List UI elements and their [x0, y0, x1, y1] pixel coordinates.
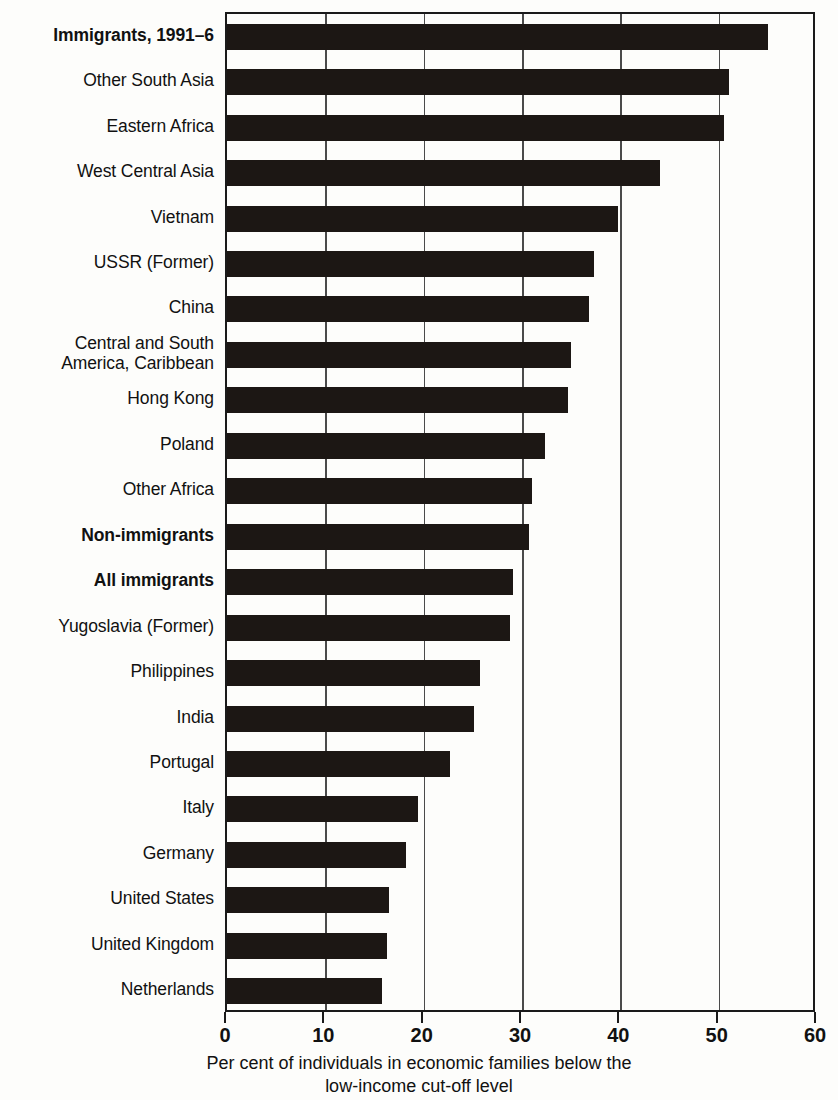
category-label: All immigrants	[0, 570, 214, 590]
category-label: United States	[0, 888, 214, 908]
x-tick-10	[322, 1012, 324, 1023]
x-tick-label-20: 20	[411, 1024, 433, 1047]
category-label: Other Africa	[0, 479, 214, 499]
x-tick-label-60: 60	[804, 1024, 826, 1047]
bar	[227, 796, 418, 822]
category-label: Other South Asia	[0, 70, 214, 90]
category-label: West Central Asia	[0, 161, 214, 181]
bar	[227, 933, 387, 959]
bar	[227, 751, 450, 777]
bar	[227, 160, 660, 186]
bar	[227, 842, 406, 868]
bar	[227, 978, 382, 1004]
category-label: Non-immigrants	[0, 525, 214, 545]
x-tick-30	[519, 1012, 521, 1023]
category-label: Netherlands	[0, 979, 214, 999]
category-label: Hong Kong	[0, 388, 214, 408]
x-tick-50	[716, 1012, 718, 1023]
bar	[227, 115, 724, 141]
bar	[227, 569, 513, 595]
category-label: Germany	[0, 843, 214, 863]
category-label: Central and South America, Caribbean	[0, 333, 214, 373]
category-label: United Kingdom	[0, 934, 214, 954]
category-label: Eastern Africa	[0, 116, 214, 136]
category-label: Philippines	[0, 661, 214, 681]
gridline-50	[719, 14, 721, 1010]
bar	[227, 296, 589, 322]
bar	[227, 660, 480, 686]
chart-figure: Immigrants, 1991–6Other South AsiaEaster…	[0, 0, 838, 1100]
bar	[227, 24, 768, 50]
x-tick-60	[814, 1012, 816, 1023]
x-tick-label-40: 40	[607, 1024, 629, 1047]
category-label: USSR (Former)	[0, 252, 214, 272]
bar	[227, 478, 532, 504]
x-axis-title: Per cent of individuals in economic fami…	[0, 1052, 838, 1098]
x-tick-label-0: 0	[219, 1024, 230, 1047]
bar	[227, 706, 474, 732]
category-label: Yugoslavia (Former)	[0, 616, 214, 636]
bar	[227, 206, 618, 232]
plot-area	[225, 12, 815, 1012]
bar	[227, 387, 568, 413]
category-label: Vietnam	[0, 207, 214, 227]
category-label: Italy	[0, 797, 214, 817]
x-tick-40	[617, 1012, 619, 1023]
bar	[227, 433, 545, 459]
x-tick-label-30: 30	[509, 1024, 531, 1047]
x-tick-label-50: 50	[706, 1024, 728, 1047]
x-axis: 0102030405060	[225, 1012, 815, 1024]
category-label: India	[0, 707, 214, 727]
bar	[227, 342, 571, 368]
category-label: Poland	[0, 434, 214, 454]
category-label: Immigrants, 1991–6	[0, 25, 214, 45]
category-label: China	[0, 297, 214, 317]
x-tick-0	[224, 1012, 226, 1023]
x-axis-title-line1: Per cent of individuals in economic fami…	[206, 1053, 631, 1073]
bar	[227, 887, 389, 913]
x-axis-title-line2: low-income cut-off level	[0, 1075, 838, 1098]
x-tick-label-10: 10	[312, 1024, 334, 1047]
category-label: Portugal	[0, 752, 214, 772]
category-label-column: Immigrants, 1991–6Other South AsiaEaster…	[0, 12, 214, 1012]
bar	[227, 251, 594, 277]
bar	[227, 524, 529, 550]
bar	[227, 615, 510, 641]
x-tick-20	[421, 1012, 423, 1023]
bar	[227, 69, 729, 95]
